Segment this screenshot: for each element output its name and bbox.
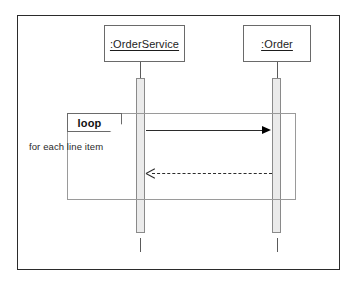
participant-box-orderservice[interactable]: :OrderService <box>104 25 185 62</box>
participant-label-order: :Order <box>261 38 293 50</box>
participant-box-order[interactable]: :Order <box>243 25 311 62</box>
lifeline-stem-order-top <box>277 62 278 79</box>
message-line-return[interactable] <box>152 173 272 174</box>
sequence-diagram-canvas: :OrderService :Order loop for each line … <box>0 0 354 282</box>
arrowhead-return-icon <box>146 169 155 178</box>
fragment-guard-condition: for each line item <box>29 141 103 152</box>
participant-label-orderservice: :OrderService <box>110 38 179 50</box>
lifeline-stem-orderservice-top <box>140 62 141 79</box>
lifeline-stem-orderservice-bottom <box>140 238 141 252</box>
fragment-operator-tab: loop <box>67 113 122 132</box>
message-line-call[interactable] <box>146 130 262 131</box>
fragment-operator-label: loop <box>77 117 101 129</box>
arrowhead-call-icon <box>262 126 271 134</box>
lifeline-stem-order-bottom <box>277 238 278 252</box>
